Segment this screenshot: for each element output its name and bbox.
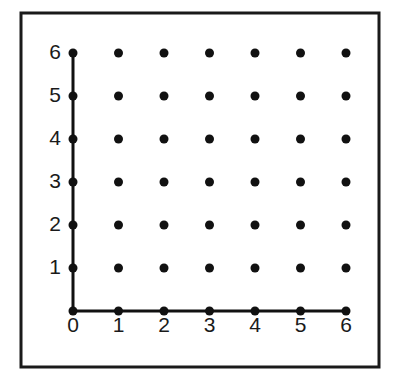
lattice-point (251, 264, 260, 273)
lattice-point (205, 49, 214, 58)
lattice-point (114, 264, 123, 273)
y-tick-label: 3 (49, 169, 61, 192)
x-tick-label: 1 (113, 313, 125, 336)
lattice-point (205, 92, 214, 101)
x-tick-label: 4 (249, 313, 261, 336)
lattice-scatter-plot: 0123456 123456 (0, 0, 400, 380)
x-tick-label: 6 (340, 313, 352, 336)
lattice-point (69, 264, 78, 273)
lattice-point (69, 135, 78, 144)
lattice-point (342, 92, 351, 101)
lattice-point (114, 221, 123, 230)
lattice-point (69, 49, 78, 58)
lattice-point (69, 178, 78, 187)
lattice-point (69, 92, 78, 101)
lattice-point (342, 135, 351, 144)
lattice-point (296, 178, 305, 187)
lattice-point (205, 221, 214, 230)
lattice-point (205, 178, 214, 187)
lattice-point (160, 264, 169, 273)
lattice-point (160, 178, 169, 187)
lattice-point (114, 135, 123, 144)
lattice-point (296, 135, 305, 144)
lattice-point (251, 49, 260, 58)
lattice-point (160, 49, 169, 58)
lattice-point (160, 221, 169, 230)
lattice-point (114, 178, 123, 187)
lattice-point (160, 92, 169, 101)
lattice-point (205, 135, 214, 144)
y-tick-label: 6 (49, 40, 61, 63)
lattice-point (342, 264, 351, 273)
lattice-point (251, 178, 260, 187)
x-tick-label: 5 (295, 313, 307, 336)
lattice-point (296, 92, 305, 101)
x-tick-label: 0 (67, 313, 79, 336)
lattice-point (296, 221, 305, 230)
figure-canvas: 0123456 123456 (0, 0, 400, 380)
lattice-point (296, 49, 305, 58)
lattice-point (342, 178, 351, 187)
lattice-point (251, 92, 260, 101)
lattice-point (251, 135, 260, 144)
x-tick-label: 2 (158, 313, 170, 336)
lattice-point (342, 49, 351, 58)
lattice-point (251, 221, 260, 230)
lattice-point (69, 221, 78, 230)
lattice-point (342, 221, 351, 230)
y-tick-label: 5 (49, 83, 61, 106)
lattice-point (114, 49, 123, 58)
lattice-point (205, 264, 214, 273)
lattice-point (114, 92, 123, 101)
lattice-point (160, 135, 169, 144)
y-tick-label: 2 (49, 212, 61, 235)
y-tick-label: 4 (49, 126, 61, 149)
y-tick-label: 1 (49, 255, 61, 278)
x-tick-label: 3 (204, 313, 216, 336)
lattice-point (296, 264, 305, 273)
